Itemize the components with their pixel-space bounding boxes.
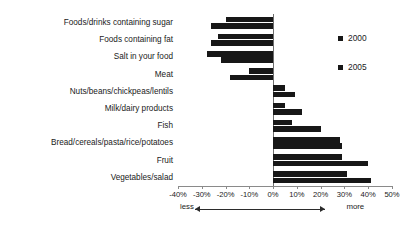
legend-swatch-icon xyxy=(338,65,343,70)
legend-item-2005[interactable]: 2005 xyxy=(338,62,367,72)
bar-2000 xyxy=(273,154,342,160)
bar-2005 xyxy=(211,40,273,46)
bar-2000 xyxy=(273,120,292,126)
bar-2005 xyxy=(273,92,294,98)
bar-group xyxy=(178,134,392,151)
axis-tick xyxy=(273,186,274,189)
axis-annotation-less: less xyxy=(180,202,194,211)
bar-2005 xyxy=(221,57,273,63)
axis-tick xyxy=(321,186,322,189)
bar-2005 xyxy=(273,143,342,149)
arrow-line xyxy=(195,209,326,210)
bar-group xyxy=(178,152,392,169)
category-label: Fish xyxy=(0,117,178,134)
bar-2000 xyxy=(218,34,273,40)
value-axis-line xyxy=(178,186,392,187)
bar-group xyxy=(178,100,392,117)
bar-group xyxy=(178,169,392,186)
category-label: Meat xyxy=(0,66,178,83)
axis-tick xyxy=(297,186,298,189)
category-label: Fruit xyxy=(0,152,178,169)
survey-diverging-bar-chart: Foods/drinks containing sugarFoods conta… xyxy=(0,0,402,226)
bar-group xyxy=(178,117,392,134)
bar-2005 xyxy=(273,126,321,132)
chart-legend: 20002005 xyxy=(338,33,367,91)
category-label: Salt in your food xyxy=(0,48,178,65)
bar-2000 xyxy=(207,51,274,57)
axis-tick xyxy=(368,186,369,189)
bar-2000 xyxy=(273,171,347,177)
axis-tick xyxy=(249,186,250,189)
category-label: Vegetables/salad xyxy=(0,169,178,186)
bar-2005 xyxy=(211,23,273,29)
axis-annotation-more: more xyxy=(346,202,364,211)
arrow-head-left-icon xyxy=(195,206,200,212)
bar-2000 xyxy=(273,103,285,109)
bar-2000 xyxy=(249,68,273,74)
legend-label: 2005 xyxy=(348,62,367,72)
bar-2000 xyxy=(226,17,274,23)
category-label: Nuts/beans/chickpeas/lentils xyxy=(0,83,178,100)
category-label: Bread/cereals/pasta/rice/potatoes xyxy=(0,134,178,151)
bar-2005 xyxy=(273,178,370,184)
category-label: Foods/drinks containing sugar xyxy=(0,14,178,31)
axis-tick xyxy=(392,186,393,189)
axis-tick xyxy=(178,186,179,189)
bar-2005 xyxy=(273,161,368,167)
legend-swatch-icon xyxy=(338,36,343,41)
axis-tick-label: 50% xyxy=(377,190,402,199)
direction-arrow xyxy=(195,206,326,213)
axis-tick xyxy=(202,186,203,189)
bar-2000 xyxy=(273,137,340,143)
bar-group xyxy=(178,14,392,31)
axis-tick xyxy=(226,186,227,189)
category-axis-labels: Foods/drinks containing sugarFoods conta… xyxy=(0,14,178,186)
axis-tick xyxy=(344,186,345,189)
category-label: Milk/dairy products xyxy=(0,100,178,117)
category-label: Foods containing fat xyxy=(0,31,178,48)
legend-label: 2000 xyxy=(348,33,367,43)
bar-2000 xyxy=(273,85,285,91)
arrow-head-right-icon xyxy=(320,206,325,212)
bar-2005 xyxy=(230,75,273,81)
bar-2005 xyxy=(273,109,302,115)
legend-item-2000[interactable]: 2000 xyxy=(338,33,367,43)
